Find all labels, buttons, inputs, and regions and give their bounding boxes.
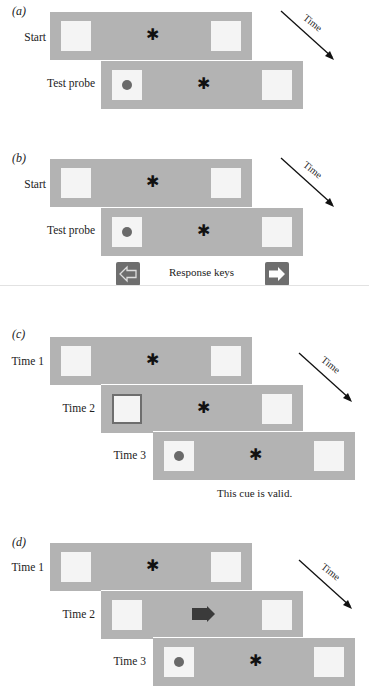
display-frame-start: ✱: [50, 159, 252, 207]
row-label-time-2: Time 2: [63, 608, 96, 620]
fixation-asterisk-icon: ✱: [197, 76, 210, 92]
fixation-asterisk-icon: ✱: [197, 400, 210, 416]
right-box: [314, 647, 344, 677]
fixation-asterisk-icon: ✱: [146, 174, 159, 190]
left-box: [112, 217, 142, 247]
panel-label: (b): [12, 151, 26, 166]
left-box: [61, 21, 91, 51]
left-box: [61, 168, 91, 198]
panel-label: (a): [12, 4, 26, 19]
right-box: [262, 394, 292, 424]
target-dot-icon: [174, 657, 184, 667]
fixation-asterisk-icon: ✱: [197, 223, 210, 239]
target-dot-icon: [174, 451, 184, 461]
target-dot-icon: [122, 227, 132, 237]
display-frame-time-1: ✱: [50, 337, 252, 385]
cued-left-box: [112, 394, 142, 424]
fixation-asterisk-icon: ✱: [249, 653, 262, 669]
left-response-key: [116, 262, 140, 286]
display-frame-time-3: ✱: [153, 431, 355, 480]
display-frame-time-2: ✱: [101, 384, 303, 433]
fixation-asterisk-icon: ✱: [146, 558, 159, 574]
right-box: [211, 346, 241, 376]
target-dot-icon: [122, 80, 132, 90]
right-box: [211, 168, 241, 198]
row-label-start: Start: [24, 31, 46, 43]
right-box: [211, 21, 241, 51]
panel-label: (c): [12, 327, 25, 342]
right-box: [262, 217, 292, 247]
row-label-time-1: Time 1: [12, 561, 45, 573]
row-label-test-probe: Test probe: [47, 77, 95, 89]
display-frame-time-2: [101, 590, 303, 639]
left-box: [61, 346, 91, 376]
right-cue-arrow-icon: [192, 606, 216, 622]
display-frame-time-3: ✱: [153, 637, 355, 686]
left-box: [164, 441, 194, 471]
response-keys-label: Response keys: [169, 266, 234, 278]
left-box: [61, 552, 91, 582]
fixation-asterisk-icon: ✱: [249, 447, 262, 463]
right-box: [314, 441, 344, 471]
panel-divider: [0, 285, 369, 286]
display-frame-start: ✱: [50, 12, 252, 60]
left-box: [112, 600, 142, 630]
row-label-time-3: Time 3: [114, 655, 147, 667]
row-label-start: Start: [24, 178, 46, 190]
left-box: [164, 647, 194, 677]
left-arrow-icon: [116, 262, 140, 286]
right-response-key: [265, 262, 289, 286]
fixation-asterisk-icon: ✱: [146, 352, 159, 368]
fixation-asterisk-icon: ✱: [146, 27, 159, 43]
display-frame-time-1: ✱: [50, 543, 252, 591]
row-label-time-1: Time 1: [12, 355, 45, 367]
panel-label: (d): [12, 535, 26, 550]
row-label-time-3: Time 3: [114, 449, 147, 461]
row-label-time-2: Time 2: [63, 402, 96, 414]
right-box: [211, 552, 241, 582]
left-box: [112, 70, 142, 100]
display-frame-test-probe: ✱: [101, 207, 303, 256]
caption: This cue is valid.: [217, 487, 292, 499]
display-frame-test-probe: ✱: [101, 60, 303, 109]
right-arrow-icon: [265, 262, 289, 286]
row-label-test-probe: Test probe: [47, 224, 95, 236]
right-box: [262, 70, 292, 100]
right-box: [262, 600, 292, 630]
